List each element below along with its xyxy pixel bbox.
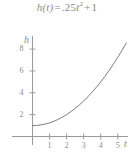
x-tick-label: 3 <box>78 141 90 150</box>
y-tick-label: 8 <box>16 44 28 53</box>
equation-constant: 1 <box>92 1 98 13</box>
axes-group <box>12 36 128 145</box>
equation-caption: h(t)=.25t2+1 <box>0 1 134 13</box>
equation-equals: = <box>53 1 61 13</box>
x-tick-label: 5 <box>112 141 124 150</box>
x-tick-label: 1 <box>44 141 56 150</box>
y-tick-label: 2 <box>16 110 28 119</box>
equation-plus: + <box>83 1 91 13</box>
y-tick-label: 4 <box>16 88 28 97</box>
plot-area: h t 246812345 <box>0 14 134 155</box>
equation-lhs: h(t) <box>37 1 54 13</box>
chart-svg <box>0 14 134 155</box>
parabola-curve <box>33 43 127 126</box>
figure-container: h(t)=.25t2+1 h t 246812345 <box>0 0 134 155</box>
equation-coefficient: .25 <box>62 1 76 13</box>
x-axis-label: t <box>124 138 127 149</box>
y-tick-label: 6 <box>16 66 28 75</box>
x-tick-label: 2 <box>61 141 73 150</box>
x-tick-label: 4 <box>95 141 107 150</box>
